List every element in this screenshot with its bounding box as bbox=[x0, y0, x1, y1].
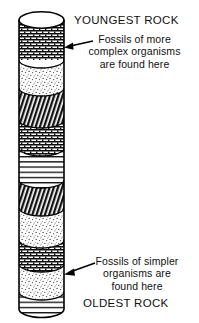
strata-stack bbox=[19, 20, 64, 317]
annotation-arrows bbox=[64, 41, 95, 276]
caption-complex-organisms: Fossils of more complex organisms are fo… bbox=[72, 33, 197, 70]
caption-simpler-organisms: Fossils of simpler organisms are found h… bbox=[78, 255, 196, 292]
oldest-rock-label: OLDEST ROCK bbox=[83, 297, 169, 311]
youngest-rock-label: YOUNGEST ROCK bbox=[74, 14, 179, 28]
